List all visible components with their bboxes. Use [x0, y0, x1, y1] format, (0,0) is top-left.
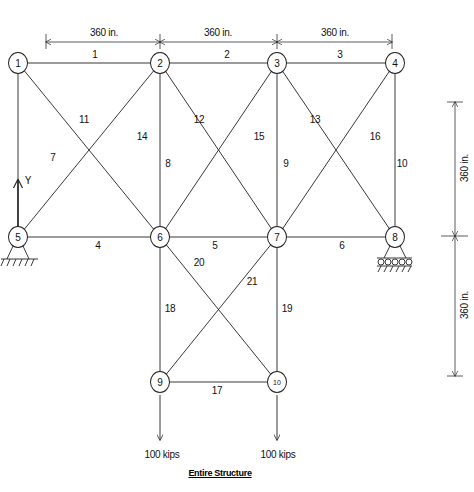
- member-label-4: 4: [95, 241, 100, 251]
- y-axis-label: Y: [25, 176, 31, 186]
- load-arrows: [160, 395, 277, 440]
- member-label-3: 3: [337, 50, 342, 60]
- member-label-15: 15: [254, 132, 265, 142]
- member-label-1: 1: [92, 50, 97, 60]
- member-label-6: 6: [339, 241, 344, 251]
- dim-label-v2: 360 in.: [459, 291, 470, 319]
- node-9: 9: [150, 371, 170, 393]
- dim-label-h2: 360 in.: [204, 28, 232, 38]
- roller-support: [377, 246, 412, 272]
- member-label-14: 14: [137, 132, 148, 142]
- member-label-16: 16: [370, 132, 381, 142]
- member-label-21: 21: [247, 277, 258, 287]
- node-10: 10: [267, 371, 287, 393]
- member-label-5: 5: [212, 241, 217, 251]
- member-label-19: 19: [282, 304, 293, 314]
- node-8: 8: [385, 226, 405, 248]
- member-label-17: 17: [212, 386, 223, 396]
- load-label-node-9: 100 kips: [145, 450, 180, 460]
- pin-support: [1, 246, 38, 266]
- members: [18, 63, 395, 382]
- node-3: 3: [267, 52, 287, 74]
- vertical-dimension: [441, 102, 468, 376]
- member-label-8: 8: [165, 159, 170, 169]
- member-label-2: 2: [224, 50, 229, 60]
- node-5: 5: [8, 226, 28, 248]
- member-label-20: 20: [194, 258, 205, 268]
- member-label-7: 7: [50, 153, 55, 163]
- load-label-node-10: 100 kips: [261, 450, 296, 460]
- diagram-title: Entire Structure: [188, 468, 251, 478]
- truss-diagram: [0, 0, 474, 492]
- dim-label-v1: 360 in.: [459, 154, 470, 182]
- node-4: 4: [385, 52, 405, 74]
- member-label-10: 10: [397, 159, 408, 169]
- member-label-12: 12: [194, 115, 205, 125]
- node-6: 6: [150, 226, 170, 248]
- node-1: 1: [8, 52, 28, 74]
- member-label-13: 13: [310, 115, 321, 125]
- dim-label-h3: 360 in.: [321, 28, 349, 38]
- member-label-18: 18: [165, 304, 176, 314]
- node-7: 7: [267, 226, 287, 248]
- member-label-11: 11: [79, 115, 89, 125]
- node-2: 2: [150, 52, 170, 74]
- member-label-9: 9: [283, 159, 288, 169]
- dim-label-h1: 360 in.: [90, 28, 118, 38]
